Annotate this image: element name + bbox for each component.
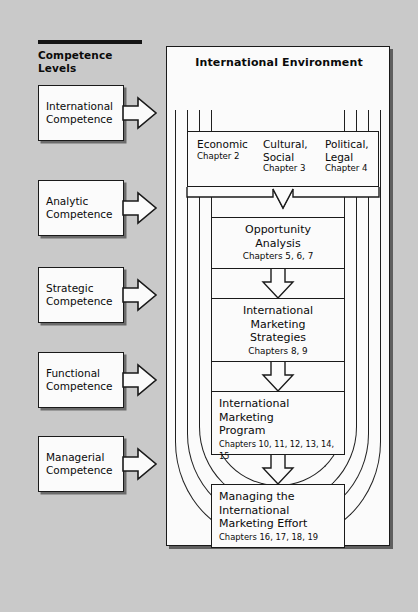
heading-rule — [38, 40, 142, 44]
competence-box-strategic[interactable]: Strategic Competence — [38, 267, 124, 323]
diagram-canvas: Competence Levels International Competen… — [0, 0, 418, 612]
stage-box-opportunity-analysis[interactable]: Opportunity Analysis Chapters 5, 6, 7 — [211, 217, 345, 269]
stage-title: Opportunity Analysis — [221, 223, 335, 250]
competence-row: Strategic Competence — [38, 267, 160, 323]
stage-title: International Marketing Program — [219, 397, 335, 438]
competence-row: Functional Competence — [38, 352, 160, 408]
competence-levels-panel: Competence Levels International Competen… — [38, 40, 160, 520]
environment-factors-box: Economic Chapter 2 Cultural, Social Chap… — [187, 131, 379, 187]
down-arrow-icon — [261, 361, 295, 393]
down-arrow-icon — [261, 454, 295, 486]
right-arrow-icon — [122, 447, 158, 481]
competence-row: Managerial Competence — [38, 436, 160, 492]
right-arrow-icon — [122, 363, 158, 397]
competence-label: Managerial Competence — [39, 451, 113, 477]
environment-factor-political-legal: Political, Legal Chapter 4 — [325, 138, 369, 174]
stage-box-marketing-program[interactable]: International Marketing Program Chapters… — [211, 391, 345, 455]
stage-chapter: Chapters 16, 17, 18, 19 — [219, 531, 335, 543]
competence-box-managerial[interactable]: Managerial Competence — [38, 436, 124, 492]
competence-label: International Competence — [39, 100, 113, 126]
factor-chapter: Chapter 4 — [325, 163, 369, 174]
environment-factor-cultural-social: Cultural, Social Chapter 3 — [263, 138, 308, 174]
right-arrow-icon — [122, 191, 158, 225]
right-arrow-icon — [122, 278, 158, 312]
competence-row: International Competence — [38, 85, 160, 141]
stage-chapter: Chapters 5, 6, 7 — [221, 250, 335, 262]
factor-name: Cultural, Social — [263, 138, 308, 163]
competence-label: Functional Competence — [39, 367, 113, 393]
competence-box-functional[interactable]: Functional Competence — [38, 352, 124, 408]
factor-chapter: Chapter 3 — [263, 163, 308, 174]
converging-bracket-arrow-icon — [181, 186, 385, 220]
international-environment-title: International Environment — [167, 56, 391, 69]
competence-levels-heading: Competence Levels — [38, 49, 153, 74]
competence-box-analytic[interactable]: Analytic Competence — [38, 180, 124, 236]
competence-row: Analytic Competence — [38, 180, 160, 236]
factor-name: Economic — [197, 138, 248, 151]
factor-name: Political, Legal — [325, 138, 369, 163]
right-arrow-icon — [122, 96, 158, 130]
down-arrow-icon — [261, 268, 295, 300]
stage-title: International Marketing Strategies — [221, 304, 335, 345]
competence-label: Analytic Competence — [39, 195, 113, 221]
factor-chapter: Chapter 2 — [197, 151, 248, 162]
competence-box-international[interactable]: International Competence — [38, 85, 124, 141]
environment-factor-economic: Economic Chapter 2 — [197, 138, 248, 162]
stage-chapter: Chapters 8, 9 — [221, 345, 335, 357]
competence-label: Strategic Competence — [39, 282, 113, 308]
international-environment-frame: International Environment Economic Chapt… — [166, 46, 390, 546]
stage-box-managing-marketing-effort[interactable]: Managing the International Marketing Eff… — [211, 484, 345, 548]
stage-title: Managing the International Marketing Eff… — [219, 490, 335, 531]
stage-box-marketing-strategies[interactable]: International Marketing Strategies Chapt… — [211, 298, 345, 362]
